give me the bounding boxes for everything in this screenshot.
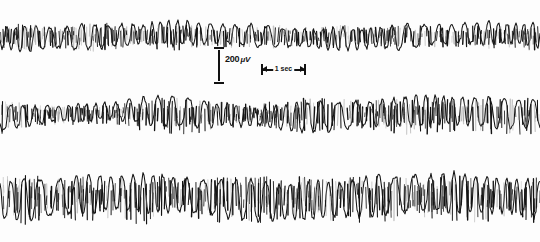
trace-stroke [297,31,298,43]
trace-stroke [1,32,2,42]
trace-stroke [123,28,124,47]
trace-stroke [260,116,261,120]
trace-stroke [460,105,461,121]
trace-stroke [487,104,488,123]
trace-stroke [24,29,25,48]
trace-stroke [522,190,523,217]
trace-stroke [205,27,206,46]
trace-stroke [286,108,287,126]
trace-stroke [513,106,514,130]
trace-stroke [180,190,181,206]
trace-stroke [538,27,539,46]
trace-stroke [319,101,320,130]
trace-stroke [237,107,238,113]
trace-stroke [150,31,151,45]
trace-stroke [188,33,189,37]
trace-stroke [509,188,510,206]
trace-stroke [14,178,15,212]
trace-stroke [485,33,486,45]
trace-stroke [209,102,210,124]
trace-stroke [197,28,198,45]
trace-stroke [295,33,296,42]
trace-stroke [231,179,232,216]
trace-stroke [144,188,145,220]
trace-stroke [522,108,523,125]
trace-stroke [273,182,274,214]
trace-stroke [370,191,371,200]
eeg-channel-3 [0,171,540,225]
trace-stroke [64,194,65,208]
trace-stroke [258,30,259,40]
trace-stroke [372,29,373,40]
trace-stroke [251,109,252,114]
trace-stroke [475,183,476,222]
trace-stroke [333,31,334,47]
trace-stroke [400,102,401,121]
trace-stroke [246,177,247,218]
trace-stroke [430,192,431,208]
trace-stroke [14,107,15,112]
trace-stroke [419,106,420,131]
trace-stroke [447,100,448,120]
trace-stroke [62,195,63,207]
trace-stroke [157,108,158,120]
trace-stroke [73,28,74,49]
trace-stroke [396,32,397,36]
trace-stroke [411,194,412,199]
trace-stroke [239,32,240,35]
trace-stroke [227,32,228,38]
trace-stroke [326,29,327,42]
trace-stroke [379,187,380,210]
trace-stroke [436,102,437,116]
trace-stroke [414,110,415,122]
eeg-channel-1 [0,20,540,52]
trace-stroke [337,190,338,215]
trace-stroke [471,188,472,208]
trace-stroke [415,30,416,46]
trace-stroke [366,187,367,208]
trace-stroke [318,189,319,213]
trace-stroke [263,104,264,123]
trace-stroke [99,28,100,45]
trace-stroke [89,24,90,36]
trace-stroke [52,34,53,42]
trace-stroke [413,32,414,46]
trace-stroke [229,29,230,42]
trace-stroke [518,113,519,120]
trace-stroke [281,30,282,42]
trace-stroke [491,190,492,207]
trace-stroke [453,32,454,43]
trace-stroke [486,108,487,122]
trace-stroke [211,183,212,200]
trace-stroke [510,99,511,133]
trace-stroke [41,195,42,213]
trace-stroke [74,188,75,220]
trace-stroke [176,32,177,42]
trace-stroke [192,108,193,132]
trace-stroke [236,178,237,206]
trace-stroke [244,32,245,47]
trace-stroke [275,28,276,44]
trace-stroke [60,29,61,43]
trace-stroke [303,178,304,201]
trace-stroke [194,108,195,123]
trace-stroke [484,31,485,46]
trace-stroke [515,109,516,117]
trace-stroke [78,108,79,122]
trace-stroke [21,185,22,223]
trace-stroke [436,31,437,40]
trace-stroke [157,32,158,48]
trace-stroke [533,183,534,199]
trace-stroke [441,178,442,215]
trace-stroke [3,29,4,47]
trace-stroke [264,33,265,38]
trace-stroke [394,115,395,121]
trace-stroke [429,29,430,35]
trace-stroke [8,106,9,127]
trace-stroke [156,189,157,207]
trace-stroke [170,181,171,205]
trace-stroke [400,178,401,205]
trace-stroke [152,181,153,202]
trace-stroke [164,182,165,209]
trace-stroke [512,100,513,124]
